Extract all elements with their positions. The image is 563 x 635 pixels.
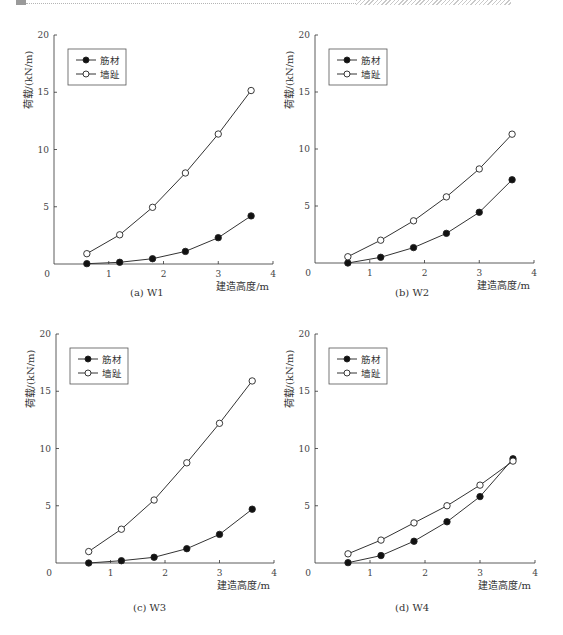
x-tick-label: 2 <box>422 568 428 578</box>
line-chart-w4: 012345101520建造高度/m荷载/(kN/m)筋材墙趾 <box>0 0 563 635</box>
data-point <box>378 552 384 558</box>
axes: 012345101520建造高度/m荷载/(kN/m) <box>284 329 538 591</box>
data-point <box>345 559 351 565</box>
y-tick-label: 20 <box>299 329 311 339</box>
legend-label: 筋材 <box>361 354 381 365</box>
series-reinforcement <box>345 456 516 566</box>
data-point <box>378 537 384 543</box>
legend-label: 墙趾 <box>361 368 381 379</box>
x-tick-label: 1 <box>367 568 373 578</box>
x-tick-label: 0 <box>305 568 311 578</box>
legend-marker <box>344 370 350 376</box>
data-point <box>411 538 417 544</box>
legend-marker <box>344 356 350 362</box>
y-tick-label: 10 <box>299 444 311 454</box>
series-line <box>348 459 513 563</box>
y-tick-label: 5 <box>304 501 310 511</box>
caption-w4: (d) W4 <box>395 602 429 613</box>
x-axis-label: 建造高度/m <box>478 579 531 591</box>
legend: 筋材墙趾 <box>329 348 387 384</box>
data-point <box>510 458 516 464</box>
data-point <box>345 551 351 557</box>
data-point <box>477 482 483 488</box>
x-tick-label: 4 <box>532 568 538 578</box>
x-tick-label: 3 <box>477 568 483 578</box>
series-line <box>348 461 513 554</box>
y-tick-label: 15 <box>299 386 311 396</box>
data-point <box>477 493 483 499</box>
series-wall-toe <box>345 458 516 557</box>
y-axis-label: 荷载/(kN/m) <box>284 349 295 408</box>
chart-panel-w4: 012345101520建造高度/m荷载/(kN/m)筋材墙趾 <box>0 0 563 635</box>
data-point <box>411 520 417 526</box>
data-point <box>444 519 450 525</box>
data-point <box>444 503 450 509</box>
